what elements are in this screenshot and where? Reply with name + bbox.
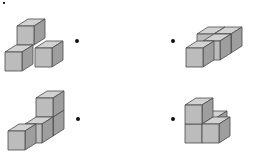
match-dot-2[interactable]: [171, 39, 175, 43]
figure-1: [5, 19, 63, 71]
corner-mark: [3, 2, 5, 4]
figure-2: [186, 27, 242, 67]
match-dot-1[interactable]: [75, 39, 79, 43]
figure-4: [185, 98, 230, 143]
figure-3: [8, 91, 64, 150]
cube-figures-canvas: [0, 0, 265, 164]
match-dot-4[interactable]: [171, 117, 175, 121]
match-dot-3[interactable]: [76, 117, 80, 121]
